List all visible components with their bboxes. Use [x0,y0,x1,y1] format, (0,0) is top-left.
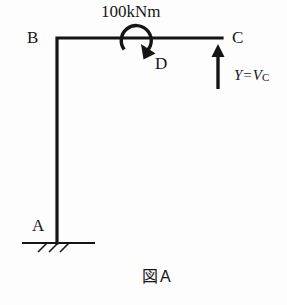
moment-value-label: 100kNm [101,3,161,20]
force-label: Y=VC [234,68,269,83]
frame-diagram-svg [0,0,287,305]
frame-members [57,38,222,243]
caption-zu-character: 図 [142,267,158,286]
node-label-d: D [155,55,167,72]
moment-arrowhead [141,44,156,60]
support-hatch-2 [49,243,58,252]
support-hatch-1 [38,243,47,252]
force-equals-sign: = [242,67,252,83]
figure-caption: 図A [142,269,171,285]
node-label-c: C [232,29,243,46]
force-arrowhead [212,44,225,57]
force-value-symbol: V [253,67,262,83]
node-label-b: B [27,29,38,46]
frame-member-path [57,38,222,243]
moment-arrow-d [121,26,155,60]
force-value-subscript: C [262,71,269,83]
node-label-a: A [32,217,44,234]
figure-canvas: 100kNm B C D A Y=VC 図A [0,0,287,305]
support-hatch-3 [60,243,69,252]
force-arrow-c [212,44,225,89]
caption-letter: A [158,268,171,285]
